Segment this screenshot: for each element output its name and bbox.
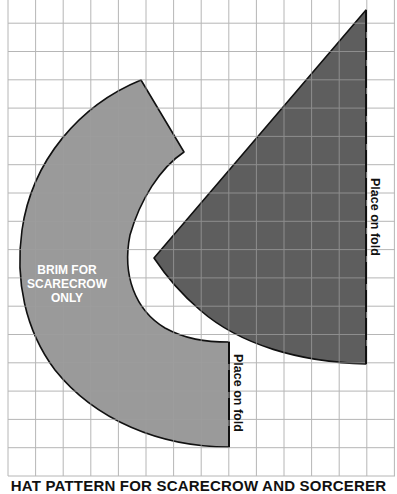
figure-caption: HAT PATTERN FOR SCARECROW AND SORCERER bbox=[0, 477, 397, 494]
brim-label-line-3: ONLY bbox=[51, 291, 83, 305]
brim-label-line-1: BRIM FOR bbox=[37, 263, 97, 277]
cone-fold-label: Place on fold bbox=[368, 178, 382, 256]
brim-fold-label: Place on fold bbox=[231, 354, 245, 432]
brim-label-line-2: SCARECROW bbox=[27, 277, 108, 291]
